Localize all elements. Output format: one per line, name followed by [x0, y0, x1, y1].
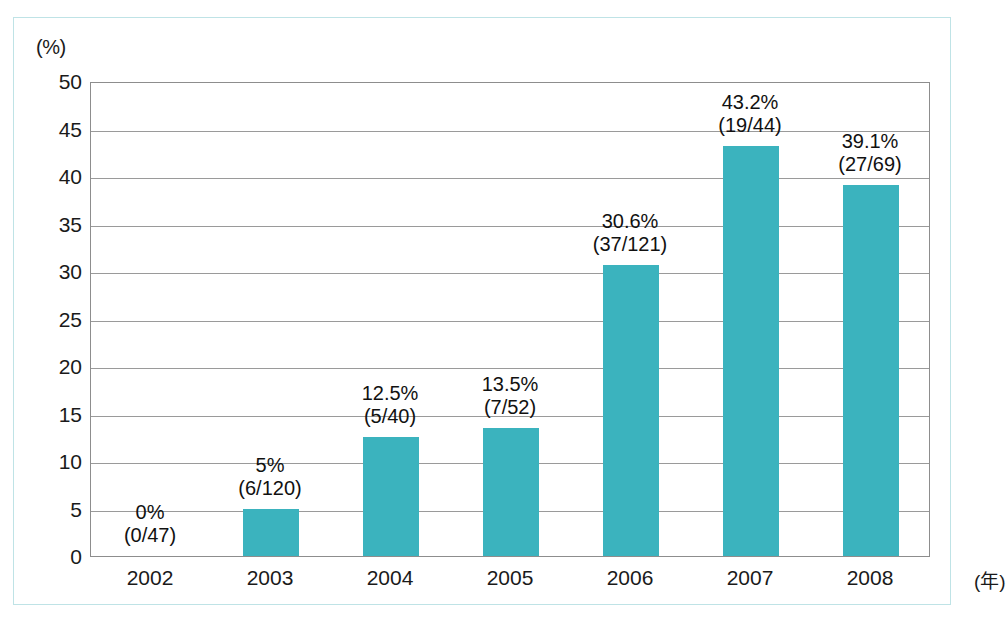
y-axis-tick-label: 15	[38, 403, 82, 427]
bar	[603, 265, 659, 556]
data-label: 30.6%(37/121)	[593, 210, 668, 256]
gridline	[91, 321, 929, 322]
y-axis-tick-label: 35	[38, 213, 82, 237]
gridline	[91, 273, 929, 274]
data-label: 43.2%(19/44)	[718, 91, 781, 137]
y-axis-tick-label: 10	[38, 450, 82, 474]
data-label: 0%(0/47)	[124, 501, 176, 547]
gridline	[91, 226, 929, 227]
data-label-percent: 43.2%	[718, 91, 781, 114]
data-label-percent: 13.5%	[482, 373, 539, 396]
x-axis-tick-label: 2006	[607, 566, 654, 590]
y-axis-tick-label: 30	[38, 260, 82, 284]
gridline	[91, 131, 929, 132]
data-label-fraction: (5/40)	[362, 405, 419, 428]
data-label-fraction: (27/69)	[838, 153, 901, 176]
data-label-percent: 30.6%	[593, 210, 668, 233]
bar	[243, 509, 299, 557]
x-axis-unit-label: (年)	[974, 566, 1006, 593]
data-label-fraction: (0/47)	[124, 524, 176, 547]
plot-area	[90, 82, 930, 557]
data-label: 13.5%(7/52)	[482, 373, 539, 419]
y-axis-tick-label: 40	[38, 165, 82, 189]
data-label-fraction: (6/120)	[238, 477, 301, 500]
y-axis-tick-label: 25	[38, 308, 82, 332]
data-label-fraction: (37/121)	[593, 233, 668, 256]
gridline	[91, 178, 929, 179]
bar	[723, 146, 779, 556]
x-axis-tick-label: 2008	[847, 566, 894, 590]
data-label: 12.5%(5/40)	[362, 382, 419, 428]
bar	[483, 428, 539, 556]
y-axis-tick-label: 0	[38, 545, 82, 569]
data-label-fraction: (7/52)	[482, 396, 539, 419]
y-axis-tick-label: 5	[38, 498, 82, 522]
bar	[363, 437, 419, 556]
x-axis-tick-label: 2002	[127, 566, 174, 590]
x-axis-tick-label: 2007	[727, 566, 774, 590]
data-label-percent: 5%	[238, 454, 301, 477]
gridline	[91, 368, 929, 369]
y-axis-tick-labels: 50454035302520151050	[28, 82, 82, 557]
data-label-percent: 12.5%	[362, 382, 419, 405]
y-axis-unit-label: (%)	[36, 36, 66, 59]
x-axis-tick-label: 2003	[247, 566, 294, 590]
data-label-fraction: (19/44)	[718, 114, 781, 137]
y-axis-tick-label: 45	[38, 118, 82, 142]
x-axis-tick-label: 2004	[367, 566, 414, 590]
y-axis-tick-label: 20	[38, 355, 82, 379]
data-label-percent: 0%	[124, 501, 176, 524]
data-label: 39.1%(27/69)	[838, 130, 901, 176]
x-axis-tick-labels: (年) 2002200320042005200620072008	[90, 566, 930, 602]
bar	[843, 185, 899, 556]
data-label-percent: 39.1%	[838, 130, 901, 153]
data-label: 5%(6/120)	[238, 454, 301, 500]
y-axis-tick-label: 50	[38, 70, 82, 94]
x-axis-tick-label: 2005	[487, 566, 534, 590]
